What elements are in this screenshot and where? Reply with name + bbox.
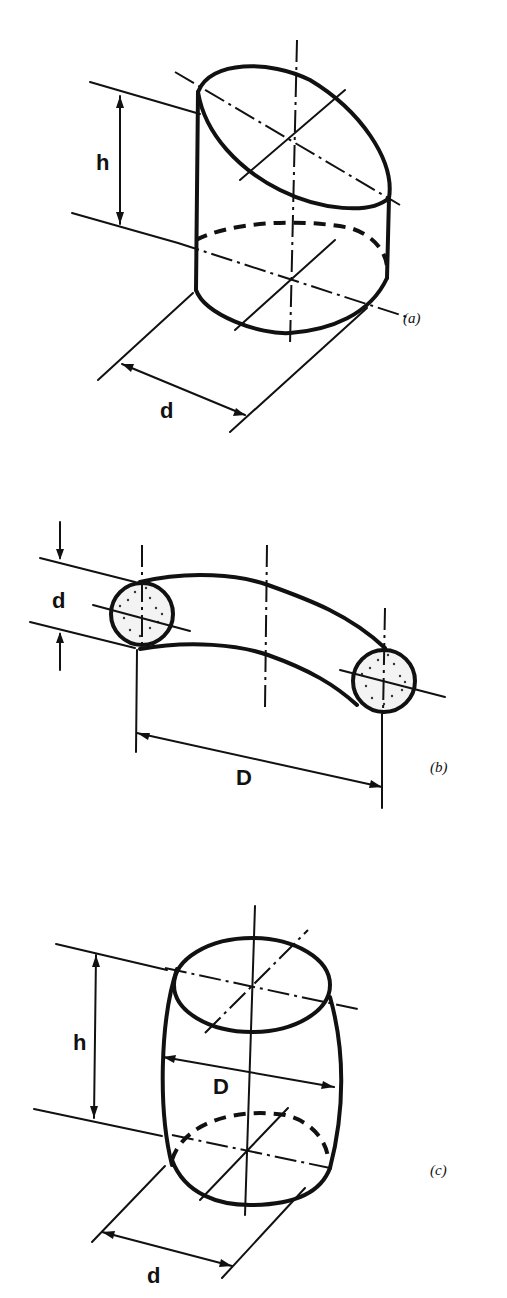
tube-upper-edge: [140, 575, 385, 648]
label-d: d: [147, 1263, 160, 1288]
h-extension-bottom: [34, 1109, 162, 1136]
label-D: D: [213, 1074, 229, 1099]
arrow-up-icon: [116, 96, 124, 108]
bottom-ellipse-hidden: [172, 1113, 328, 1160]
barrel-right-side: [330, 997, 341, 1168]
h-extension-top: [56, 944, 167, 970]
bottom-major-axis: [172, 1135, 330, 1168]
d-dimension-line: [122, 364, 245, 415]
arrow-up-icon: [92, 955, 100, 967]
panel-a-truncated-cylinder: h d (a): [72, 40, 421, 432]
arrow-right-icon: [233, 408, 245, 416]
bottom-ellipse-visible: [172, 1160, 330, 1205]
cylinder-right-edge: [387, 198, 389, 278]
label-d: d: [52, 588, 65, 613]
d-extension-left: [92, 1166, 165, 1242]
d-extension-right: [222, 1188, 305, 1278]
bottom-minor-axis: [235, 240, 335, 330]
arrow-up-icon: [56, 632, 64, 643]
vertical-axis: [245, 906, 255, 1215]
arrow-left-icon: [137, 733, 150, 740]
caption-c: (c): [430, 1162, 447, 1179]
geometry-diagram: h d (a) d: [0, 0, 507, 1298]
cylinder-left-edge: [196, 92, 198, 290]
d-extension-left: [98, 293, 193, 380]
arrow-down-icon: [56, 549, 64, 560]
h-extension-bottom: [72, 213, 178, 243]
label-d: d: [160, 398, 173, 423]
arrow-down-icon: [90, 1106, 98, 1118]
h-extension-top: [90, 82, 200, 114]
arrow-right-icon: [219, 1259, 232, 1267]
D-extension-left: [136, 650, 137, 752]
arrow-right-icon: [369, 780, 382, 788]
tube-lower-edge: [140, 644, 357, 705]
bottom-major-axis: [178, 243, 410, 318]
arrow-left-icon: [102, 1231, 115, 1239]
caption-b: (b): [430, 759, 448, 776]
panel-c-barrel: h D d (c): [34, 906, 447, 1288]
label-h: h: [73, 1030, 86, 1055]
top-minor-axis: [205, 930, 308, 1033]
label-h: h: [96, 150, 109, 175]
top-minor-axis: [240, 90, 345, 180]
d-dimension-line: [102, 1232, 232, 1266]
bottom-minor-axis: [200, 1108, 288, 1200]
vertical-axis: [290, 40, 297, 345]
arrow-right-icon: [321, 1081, 334, 1089]
arrow-left-icon: [122, 364, 134, 372]
arrow-down-icon: [116, 212, 124, 224]
label-D: D: [236, 765, 252, 790]
tube-middle-axis: [265, 545, 267, 708]
d-extension-top: [40, 558, 135, 582]
caption-a: (a): [403, 310, 421, 327]
panel-b-torus-segment: d D (b): [30, 522, 448, 808]
D-dimension-line: [137, 733, 382, 787]
h-dimension-line: [94, 955, 96, 1118]
